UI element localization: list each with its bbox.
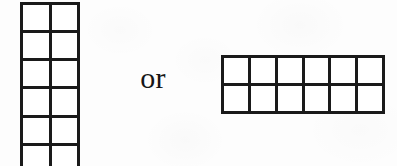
array-cell — [251, 58, 275, 83]
array-cell — [52, 89, 78, 114]
array-cell — [331, 58, 355, 83]
array-cell — [358, 86, 382, 111]
array-cell — [305, 86, 329, 111]
array-cell — [358, 58, 382, 83]
array-cell — [305, 58, 329, 83]
array-cell — [23, 146, 49, 166]
array-cell — [224, 86, 248, 111]
array-cell — [23, 61, 49, 86]
array-cell — [278, 86, 302, 111]
array-cell — [52, 146, 78, 166]
array-cell — [224, 58, 248, 83]
array-cell — [23, 89, 49, 114]
array-cell — [278, 58, 302, 83]
array-cell — [52, 5, 78, 30]
array-cell — [331, 86, 355, 111]
array-cell — [52, 118, 78, 143]
array-cell — [251, 86, 275, 111]
horizontal-array-grid — [221, 55, 385, 114]
array-cell — [52, 61, 78, 86]
vertical-array-grid — [20, 2, 80, 166]
array-cell — [52, 33, 78, 58]
array-cell — [23, 33, 49, 58]
conjunction-label: or — [136, 62, 170, 94]
figure-canvas: or — [0, 0, 397, 166]
array-cell — [23, 118, 49, 143]
array-cell — [23, 5, 49, 30]
